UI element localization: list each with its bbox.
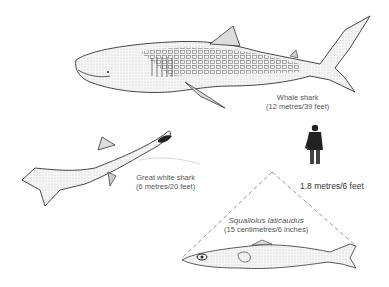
- squaliolus-drawing: [182, 240, 356, 269]
- great-white-name: Great white shark: [136, 173, 195, 182]
- squaliolus-size: (15 centimetres/6 inches): [224, 225, 308, 234]
- human-figure-drawing: [305, 125, 323, 164]
- great-white-size: (6 metres/20 feet): [136, 182, 195, 191]
- great-white-label: Great white shark (6 metres/20 feet): [136, 173, 195, 191]
- human-size: 1.8 metres/6 feet: [300, 182, 364, 191]
- illustration-canvas: [0, 0, 389, 287]
- whale-shark-name: Whale shark: [266, 93, 329, 102]
- great-white-shark-drawing: [22, 131, 200, 206]
- whale-shark-label: Whale shark (12 metres/39 feet): [266, 93, 329, 111]
- squaliolus-label: Squaliolus laticaudus (15 centimetres/6 …: [224, 216, 308, 234]
- squaliolus-name: Squaliolus laticaudus: [224, 216, 308, 225]
- human-label: 1.8 metres/6 feet: [300, 182, 364, 191]
- whale-shark-size: (12 metres/39 feet): [266, 102, 329, 111]
